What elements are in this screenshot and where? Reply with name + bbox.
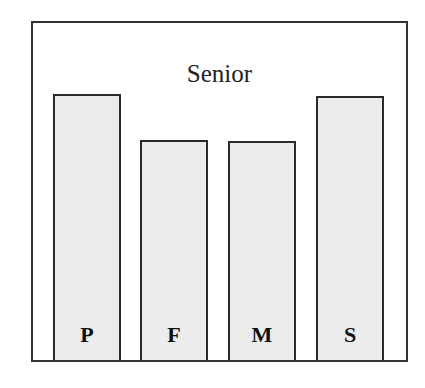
bar-label-f: F	[142, 322, 206, 348]
chart-title: Senior	[33, 60, 406, 88]
bar-p: P	[53, 94, 121, 360]
chart-frame: Senior P F M S	[31, 21, 408, 362]
bar-label-s: S	[318, 322, 382, 348]
bar-s: S	[316, 96, 384, 360]
bar-f: F	[140, 140, 208, 360]
bar-label-p: P	[55, 322, 119, 348]
bar-label-m: M	[230, 322, 294, 348]
bar-m: M	[228, 141, 296, 360]
